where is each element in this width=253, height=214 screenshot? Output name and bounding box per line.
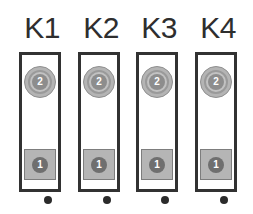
terminal-1-contact-k1: 1 <box>32 157 48 173</box>
terminal-block-k3[interactable]: K3 2 1 <box>135 0 195 214</box>
terminal-2-contact-k1: 2 <box>32 74 48 90</box>
pin-dot-k1 <box>44 196 52 204</box>
block-label-k2: K2 <box>77 12 125 44</box>
terminal-2-contact-k3: 2 <box>149 74 165 90</box>
block-label-k1: K1 <box>18 12 66 44</box>
terminal-2-ring-k2: 2 <box>87 70 111 94</box>
pin-dot-k4 <box>220 196 228 204</box>
terminal-2-number-k2: 2 <box>96 77 102 87</box>
terminal-1-contact-k2: 1 <box>91 157 107 173</box>
terminal-block-k4[interactable]: K4 2 1 <box>194 0 253 214</box>
terminal-2-k1[interactable]: 2 <box>24 66 56 98</box>
terminal-1-k2[interactable]: 1 <box>83 149 115 180</box>
terminal-2-ring-k4: 2 <box>204 70 228 94</box>
terminal-1-number-k4: 1 <box>213 160 219 170</box>
terminal-2-number-k3: 2 <box>154 77 160 87</box>
block-label-k4: K4 <box>194 12 242 44</box>
terminal-2-ring-k3: 2 <box>145 70 169 94</box>
terminal-2-number-k4: 2 <box>213 77 219 87</box>
pin-dot-k3 <box>161 196 169 204</box>
terminal-block-k1[interactable]: K1 2 1 <box>18 0 78 214</box>
terminal-2-ring-k1: 2 <box>28 70 52 94</box>
terminal-1-k3[interactable]: 1 <box>141 149 173 180</box>
terminal-2-k4[interactable]: 2 <box>200 66 232 98</box>
terminal-1-number-k3: 1 <box>154 160 160 170</box>
terminal-1-number-k1: 1 <box>37 160 43 170</box>
block-body-k1: 2 1 <box>19 52 61 192</box>
terminal-block-k2[interactable]: K2 2 1 <box>77 0 137 214</box>
block-body-k4: 2 1 <box>195 52 237 192</box>
terminal-1-number-k2: 1 <box>96 160 102 170</box>
terminal-1-contact-k3: 1 <box>149 157 165 173</box>
terminal-1-k1[interactable]: 1 <box>24 149 56 180</box>
block-body-k3: 2 1 <box>136 52 178 192</box>
terminal-2-contact-k2: 2 <box>91 74 107 90</box>
terminal-2-k3[interactable]: 2 <box>141 66 173 98</box>
terminal-block-diagram: K1 2 1 K2 2 <box>0 0 253 214</box>
terminal-1-k4[interactable]: 1 <box>200 149 232 180</box>
terminal-1-contact-k4: 1 <box>208 157 224 173</box>
block-body-k2: 2 1 <box>78 52 120 192</box>
terminal-2-k2[interactable]: 2 <box>83 66 115 98</box>
terminal-2-contact-k4: 2 <box>208 74 224 90</box>
block-label-k3: K3 <box>135 12 183 44</box>
pin-dot-k2 <box>103 196 111 204</box>
terminal-2-number-k1: 2 <box>37 77 43 87</box>
